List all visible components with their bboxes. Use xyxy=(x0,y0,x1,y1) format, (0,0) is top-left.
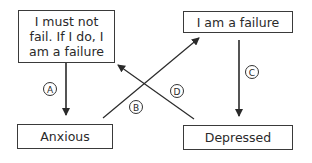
arrow-b xyxy=(103,38,199,118)
node-depressed: Depressed xyxy=(183,125,293,150)
edge-label-c: C xyxy=(245,65,259,79)
edge-label-a: A xyxy=(43,82,57,96)
node-anxious: Anxious xyxy=(17,124,113,149)
node-failure-text: I am a failure xyxy=(197,15,280,30)
node-anxious-text: Anxious xyxy=(40,129,89,144)
edge-label-b: B xyxy=(129,100,143,114)
node-depressed-text: Depressed xyxy=(205,130,271,145)
node-failure: I am a failure xyxy=(183,11,293,33)
edge-label-d: D xyxy=(170,84,184,98)
node-belief-text: I must not fail. If I do, I am a failure xyxy=(23,14,110,59)
node-belief: I must not fail. If I do, I am a failure xyxy=(18,10,115,63)
